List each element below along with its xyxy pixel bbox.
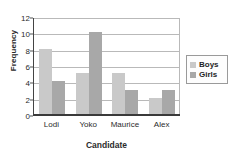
legend-item-boys[interactable]: Boys <box>190 60 224 69</box>
bar-maurice-girls <box>125 90 138 114</box>
legend: BoysGirls <box>186 55 228 84</box>
bar-chart: Frequency 024681012 LodiYokoMauriceAlex … <box>0 0 230 163</box>
legend-label: Boys <box>199 60 219 69</box>
x-tick-label: Lodi <box>33 120 70 129</box>
y-tick-label: 12 <box>21 14 30 23</box>
plot-area <box>33 18 180 116</box>
bar-alex-girls <box>162 90 175 114</box>
x-axis-title: Candidate <box>33 140 180 150</box>
legend-swatch-icon <box>190 72 196 78</box>
bar-group <box>107 18 144 114</box>
bar-maurice-boys <box>112 73 125 114</box>
legend-item-girls[interactable]: Girls <box>190 70 224 79</box>
x-tick-label: Alex <box>143 120 180 129</box>
x-tick-label: Maurice <box>107 120 144 129</box>
bar-group <box>71 18 108 114</box>
bar-groups <box>34 18 180 114</box>
bar-yoko-boys <box>76 73 89 114</box>
y-tick-label: 10 <box>21 30 30 39</box>
x-tick-label: Yoko <box>70 120 107 129</box>
bar-group <box>144 18 181 114</box>
bar-yoko-girls <box>89 32 102 114</box>
legend-label: Girls <box>199 70 217 79</box>
bar-lodi-girls <box>52 81 65 114</box>
bar-group <box>34 18 71 114</box>
bar-alex-boys <box>149 98 162 114</box>
legend-swatch-icon <box>190 62 196 68</box>
y-axis-tick-labels: 024681012 <box>12 18 30 116</box>
bar-lodi-boys <box>39 49 52 114</box>
x-axis-tick-labels: LodiYokoMauriceAlex <box>33 120 180 129</box>
